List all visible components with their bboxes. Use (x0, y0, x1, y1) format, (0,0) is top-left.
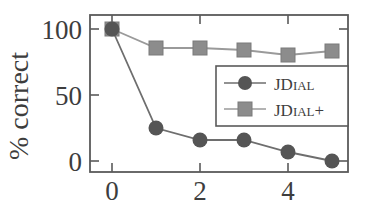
legend-label-jdial: JDIAL (274, 75, 315, 94)
legend-marker-circle (238, 76, 252, 90)
data-point-circle (105, 22, 120, 37)
x-tick-label-4: 4 (281, 176, 295, 206)
y-tick-label-50: 50 (55, 81, 82, 111)
data-point-square (281, 48, 295, 62)
data-point-circle (149, 121, 164, 136)
data-point-circle (237, 133, 252, 148)
y-tick-label-100: 100 (42, 15, 83, 45)
data-point-square (325, 44, 339, 58)
data-point-circle (281, 145, 296, 160)
y-axis-label: % correct (3, 52, 34, 160)
chart-legend: JDIAL JDIAL+ (216, 66, 348, 126)
y-tick-label-0: 0 (69, 147, 83, 177)
legend-label-jdialplus-suffix: + (315, 101, 325, 120)
legend-label-jdialplus-small: IAL (293, 104, 315, 119)
legend-label-jdial-cap: JD (274, 75, 293, 94)
data-point-square (149, 41, 163, 55)
x-tick-label-2: 2 (193, 176, 207, 206)
data-point-circle (325, 154, 340, 169)
chart-figure: % correct 100 50 0 0 2 4 (0, 0, 372, 211)
legend-label-jdialplus: JDIAL+ (274, 101, 324, 120)
data-point-square (193, 41, 207, 55)
legend-label-jdial-small: IAL (293, 78, 315, 93)
legend-marker-square (238, 102, 252, 116)
data-point-square (237, 43, 251, 57)
line-chart: % correct 100 50 0 0 2 4 (0, 0, 372, 211)
legend-label-jdialplus-cap: JD (274, 101, 293, 120)
x-tick-label-0: 0 (105, 176, 119, 206)
data-point-circle (193, 133, 208, 148)
